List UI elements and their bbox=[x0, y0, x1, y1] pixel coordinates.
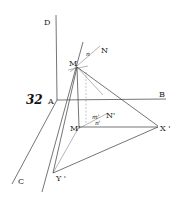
axis-AD bbox=[56, 15, 57, 100]
line-M-short bbox=[77, 67, 103, 95]
geometry-diagram: 32 D A B C M N n M' m' n' N' X ' Y ' bbox=[0, 0, 186, 200]
line-M-Mprime bbox=[77, 67, 79, 127]
line-Xprime-Yprime bbox=[53, 127, 158, 173]
label-D: D bbox=[44, 18, 50, 27]
label-M-prime: M' bbox=[70, 124, 80, 133]
label-X-prime: X ' bbox=[160, 124, 170, 133]
label-A: A bbox=[47, 97, 54, 106]
label-M: M bbox=[69, 59, 77, 68]
axis-AB bbox=[57, 99, 166, 100]
label-B: B bbox=[159, 90, 165, 99]
label-N-prime: N' bbox=[106, 111, 115, 120]
axis-AC bbox=[12, 100, 57, 184]
label-Y-prime: Y ' bbox=[55, 174, 66, 183]
label-n-prime: n' bbox=[95, 119, 101, 126]
label-C: C bbox=[18, 177, 24, 186]
label-N: N bbox=[101, 46, 108, 55]
label-n: n bbox=[86, 50, 90, 57]
line-Yprime-Mprime bbox=[53, 127, 79, 173]
figure-number: 32 bbox=[26, 93, 43, 107]
line-M-Xprime bbox=[77, 67, 158, 126]
